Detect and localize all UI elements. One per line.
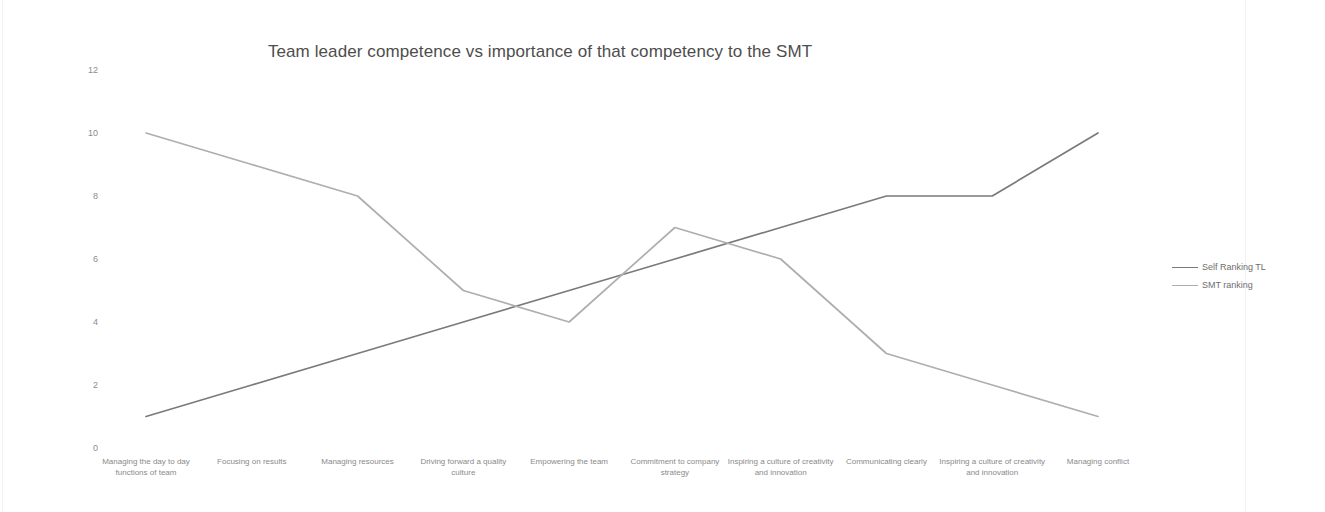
chart-legend: Self Ranking TLSMT ranking (1172, 258, 1322, 294)
legend-swatch-icon (1172, 285, 1198, 286)
x-tick-label-10: Managing conflict (1044, 456, 1152, 467)
x-tick-label-5: Empowering the team (515, 456, 623, 467)
x-tick-label-4: Driving forward a quality culture (409, 456, 517, 478)
legend-swatch-icon (1172, 267, 1198, 268)
x-tick-label-6: Commitment to company strategy (621, 456, 729, 478)
x-tick-label-1: Managing the day to day functions of tea… (92, 456, 200, 478)
legend-label: Self Ranking TL (1202, 262, 1266, 272)
legend-label: SMT ranking (1202, 280, 1253, 290)
series-lines (0, 0, 1325, 512)
x-tick-label-9: Inspiring a culture of creativity and in… (938, 456, 1046, 478)
legend-item-1[interactable]: Self Ranking TL (1172, 258, 1322, 276)
x-tick-label-7: Inspiring a culture of creativity and in… (727, 456, 835, 478)
x-tick-label-2: Focusing on results (198, 456, 306, 467)
x-tick-label-3: Managing resources (304, 456, 412, 467)
x-tick-label-8: Communicating clearly (832, 456, 940, 467)
plot-area: 024681012 Managing the day to day functi… (0, 0, 1325, 512)
legend-item-2[interactable]: SMT ranking (1172, 276, 1322, 294)
chart-container: Team leader competence vs importance of … (0, 0, 1325, 512)
